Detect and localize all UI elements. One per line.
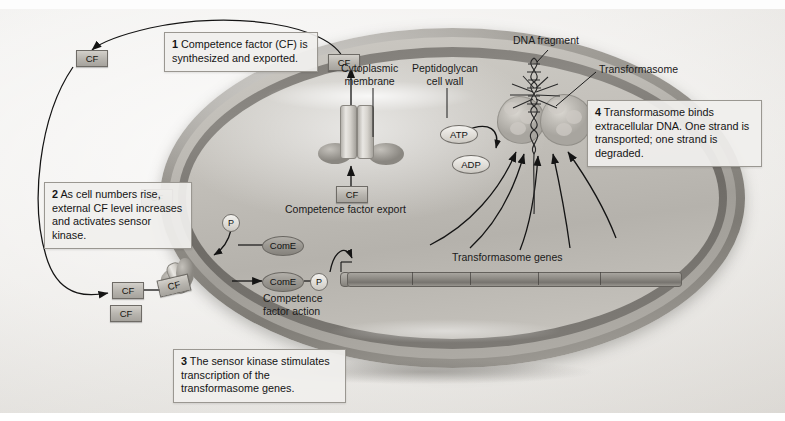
figure-canvas: CF CF CF CF CF CF CF ATP ADP P P ComE Co… (0, 0, 785, 421)
arrow-phosphate-transfer (214, 230, 231, 255)
callout-step-2: 2 As cell numbers rise, external CF leve… (44, 182, 192, 249)
callout-step-1-text: Competence factor (CF) is synthesized an… (172, 38, 308, 64)
callout-step-1: 1 Competence factor (CF) is synthesized … (164, 32, 318, 72)
callout-step-3-number: 3 (181, 355, 187, 367)
cf-token-approaching[interactable]: CF (112, 282, 144, 299)
arrow-gene-product-3 (520, 156, 538, 250)
leader-dna-fragment (537, 50, 548, 62)
label-competence-factor-export: Competence factor export (285, 203, 406, 216)
callout-step-3: 3 The sensor kinase stimulates transcrip… (173, 349, 346, 403)
callout-step-4-text: Transformasome binds extracellular DNA. … (595, 106, 749, 159)
label-competence-factor-action: Competence factor action (263, 292, 323, 317)
label-dna-fragment: DNA fragment (513, 34, 579, 47)
label-cytoplasmic-membrane: Cytoplasmic membrane (341, 62, 398, 87)
phosphate-group-free: P (222, 214, 240, 232)
dna-fragment-helix (527, 58, 541, 154)
phosphate-group-on-come: P (310, 273, 328, 291)
callout-step-1-number: 1 (172, 38, 178, 50)
dna-transported-strand (534, 154, 535, 214)
label-peptidoglycan-cell-wall: Peptidoglycan cell wall (412, 62, 478, 87)
callout-step-2-text: As cell numbers rise, external CF level … (52, 188, 182, 241)
callout-step-4-number: 4 (595, 106, 601, 118)
callout-step-3-text: The sensor kinase stimulates transcripti… (181, 355, 330, 394)
come-protein-active: ComE (262, 272, 304, 292)
arrow-cf-accumulation-loop (38, 67, 108, 295)
come-protein-inactive: ComE (262, 236, 304, 256)
arrow-gene-product-4 (553, 154, 570, 248)
callout-step-2-number: 2 (52, 188, 58, 200)
cf-token-spare-lower[interactable]: CF (110, 305, 142, 322)
label-transformasome-genes: Transformasome genes (452, 251, 563, 264)
atp-molecule: ATP (440, 125, 478, 144)
cf-token-far-left[interactable]: CF (76, 50, 108, 67)
callout-step-4: 4 Transformasome binds extracellular DNA… (587, 100, 762, 167)
label-transformasome: Transformasome (599, 63, 678, 76)
cf-token-cytoplasm-export[interactable]: CF (336, 186, 368, 203)
adp-molecule: ADP (452, 155, 490, 174)
